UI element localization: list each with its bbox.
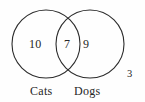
count-cats-only: 10 bbox=[29, 38, 41, 50]
count-intersection: 7 bbox=[64, 38, 70, 50]
count-dogs-only: 9 bbox=[83, 38, 89, 50]
count-outside-universe: 3 bbox=[127, 69, 132, 80]
set-label-cats: Cats bbox=[30, 85, 53, 97]
venn-diagram-figure: 10 7 9 3 Cats Dogs bbox=[0, 0, 145, 102]
set-label-dogs: Dogs bbox=[74, 85, 101, 97]
venn-circles-svg bbox=[0, 0, 145, 102]
